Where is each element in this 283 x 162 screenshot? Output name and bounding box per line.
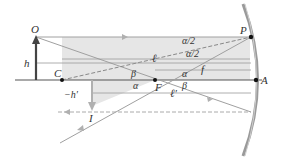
label-l: ℓ [152, 52, 157, 64]
label-h: h [24, 57, 30, 69]
point-p [249, 35, 253, 39]
label-f-point: F [154, 81, 162, 93]
ray-arrow-icon-3 [77, 125, 84, 131]
object-arrow-head-icon [32, 35, 40, 44]
label-lprime: ℓ′ [170, 87, 178, 99]
label-half-alpha-top: α/2 [182, 35, 195, 46]
point-a [254, 78, 258, 82]
label-p: P [239, 24, 247, 36]
label-i: I [88, 112, 94, 124]
label-neg-hprime: −h′ [64, 89, 79, 100]
image-arrow-head-icon [88, 102, 96, 111]
label-o: O [31, 23, 39, 35]
label-alpha-lower: α [133, 80, 139, 91]
label-a: A [260, 74, 268, 86]
ray-arrow-icon-4 [64, 109, 70, 115]
label-alpha-upper: α [182, 68, 188, 79]
label-c: C [54, 67, 62, 79]
mirror-diagram: O h C F A P I −h′ ℓ ℓ′ f α/2 α/2 α α β β [0, 0, 283, 162]
label-beta-lower: β [181, 80, 187, 91]
label-half-alpha-bottom: α/2 [186, 48, 199, 59]
label-beta-upper: β [130, 68, 136, 79]
